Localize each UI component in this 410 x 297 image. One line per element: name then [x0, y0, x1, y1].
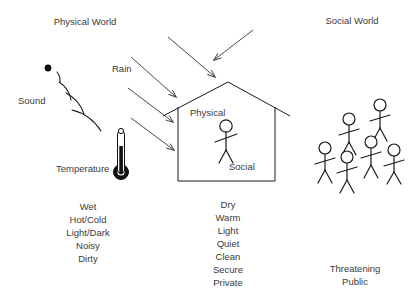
diagram-illustration: Physical World Social World Sound Tem: [0, 0, 410, 297]
stick-figure: [361, 136, 381, 178]
list-item: Public: [342, 276, 368, 287]
rain-arrow: [128, 88, 173, 122]
outside-attribute-list: Wet Hot/Cold Light/Dark Noisy Dirty: [66, 201, 110, 264]
rain-arrow: [168, 37, 215, 77]
sound-wave-arcs: [57, 72, 101, 131]
heading-social-world: Social World: [325, 15, 378, 26]
list-item: Secure: [213, 264, 243, 275]
heading-physical-world: Physical World: [54, 16, 117, 27]
stick-figure: [370, 99, 390, 141]
social-attribute-list: Threatening Public: [330, 263, 381, 287]
rain-arrow: [131, 57, 176, 97]
label-house-physical: Physical: [190, 107, 225, 118]
label-temperature: Temperature: [56, 163, 109, 174]
inside-attribute-list: Dry Warm Light Quiet Clean Secure Privat…: [213, 199, 243, 288]
list-item: Threatening: [330, 263, 381, 274]
label-sound: Sound: [18, 95, 45, 106]
stick-figure: [384, 144, 404, 184]
list-item: Dirty: [78, 253, 98, 264]
stick-figure: [215, 120, 237, 163]
stick-figure: [339, 113, 359, 155]
stick-figure: [337, 151, 357, 193]
thermometer-icon: [114, 128, 129, 179]
list-item: Clean: [216, 251, 241, 262]
list-item: Hot/Cold: [70, 214, 107, 225]
label-rain: Rain: [112, 63, 132, 74]
list-item: Light/Dark: [66, 227, 110, 238]
list-item: Noisy: [76, 240, 100, 251]
diagram-canvas: Physical World Social World Sound Tem: [0, 0, 410, 297]
rain-arrow-group: [128, 30, 253, 150]
list-item: Quiet: [217, 238, 240, 249]
list-item: Dry: [221, 199, 236, 210]
stick-figure: [315, 142, 335, 183]
list-item: Wet: [80, 201, 97, 212]
social-figure-group: [315, 99, 404, 193]
rain-arrow: [131, 118, 174, 150]
sound-source-dot: [45, 65, 52, 72]
list-item: Private: [213, 277, 243, 288]
rain-arrow: [214, 30, 253, 60]
list-item: Light: [218, 225, 239, 236]
list-item: Warm: [216, 212, 241, 223]
